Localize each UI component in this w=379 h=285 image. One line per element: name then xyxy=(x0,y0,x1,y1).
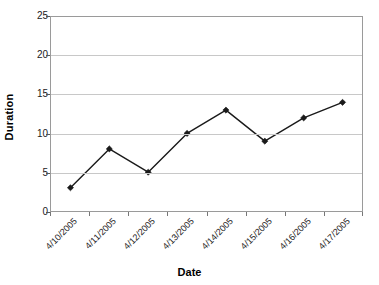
y-axis-tick-label: 0 xyxy=(26,207,48,217)
data-point-marker xyxy=(301,115,307,121)
gridline xyxy=(51,55,362,56)
gridline xyxy=(51,173,362,174)
y-axis-tick-label: 20 xyxy=(26,50,48,60)
plot-area xyxy=(50,16,363,212)
line-chart: Duration 0510152025 4/10/20054/11/20054/… xyxy=(0,0,379,285)
series-line xyxy=(70,102,342,187)
data-point-marker xyxy=(339,99,345,105)
x-axis-title-label: Date xyxy=(178,266,202,278)
data-series-svg xyxy=(51,17,362,211)
y-axis-title-label: Duration xyxy=(3,94,15,141)
gridline xyxy=(51,134,362,135)
x-axis-title: Date xyxy=(0,266,379,278)
y-axis-tick-label: 25 xyxy=(26,11,48,21)
y-axis-tick-mark xyxy=(46,173,50,174)
y-axis-title: Duration xyxy=(0,72,18,162)
y-axis-tick-mark xyxy=(46,212,50,213)
y-axis-tick-mark xyxy=(46,94,50,95)
y-axis-tick-label: 15 xyxy=(26,89,48,99)
y-axis-tick-mark xyxy=(46,16,50,17)
y-axis-tick-label: 5 xyxy=(26,168,48,178)
gridline xyxy=(51,94,362,95)
x-axis-tick-labels: 4/10/20054/11/20054/12/20054/13/20054/14… xyxy=(50,216,363,264)
y-axis-tick-mark xyxy=(46,55,50,56)
y-axis-tick-mark xyxy=(46,134,50,135)
y-axis-tick-label: 10 xyxy=(26,129,48,139)
